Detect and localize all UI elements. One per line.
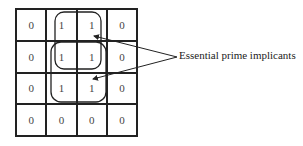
cell-r0-c1: 1 [46, 9, 76, 41]
cell-r1-c2: 1 [77, 41, 107, 73]
cell-r2-c1: 1 [46, 73, 76, 105]
cell-r2-c2: 1 [77, 73, 107, 105]
cell-r2-c3: 0 [107, 73, 137, 105]
karnaugh-map: 0 1 1 0 0 1 1 0 0 1 1 0 0 0 0 0 [15, 8, 138, 137]
cell-r3-c0: 0 [16, 104, 46, 136]
cell-r0-c0: 0 [16, 9, 46, 41]
cell-r1-c0: 0 [16, 41, 46, 73]
cell-r3-c3: 0 [107, 104, 137, 136]
cell-r0-c2: 1 [77, 9, 107, 41]
cell-r3-c2: 0 [77, 104, 107, 136]
cell-r0-c3: 0 [107, 9, 137, 41]
cell-r3-c1: 0 [46, 104, 76, 136]
cell-r2-c0: 0 [16, 73, 46, 105]
essential-prime-implicants-label: Essential prime implicants [179, 49, 296, 61]
cell-r1-c3: 0 [107, 41, 137, 73]
cell-r1-c1: 1 [46, 41, 76, 73]
